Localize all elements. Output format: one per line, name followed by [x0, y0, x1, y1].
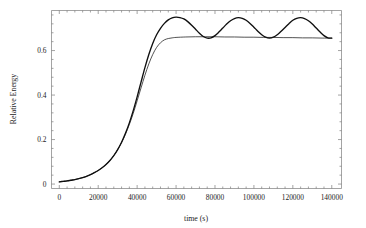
relative-energy-line-chart: 020000400006000080000100000120000140000 … [0, 0, 366, 228]
x-tick-label: 100000 [243, 193, 265, 202]
y-axis-title: Relative Energy [9, 74, 18, 124]
x-tick-label: 60000 [167, 193, 186, 202]
y-tick-label: 0 [43, 180, 47, 189]
x-tick-label: 120000 [282, 193, 304, 202]
x-tick-label: 0 [57, 193, 61, 202]
x-tick-label: 140000 [321, 193, 343, 202]
y-tick-label: 0.2 [37, 135, 47, 144]
x-tick-label: 40000 [128, 193, 147, 202]
x-axis-title: time (s) [184, 214, 208, 223]
x-tick-label: 80000 [206, 193, 225, 202]
chart-figure: 020000400006000080000100000120000140000 … [0, 0, 366, 228]
x-tick-label: 20000 [89, 193, 108, 202]
y-tick-label: 0.6 [37, 46, 47, 55]
y-tick-label: 0.4 [37, 91, 47, 100]
